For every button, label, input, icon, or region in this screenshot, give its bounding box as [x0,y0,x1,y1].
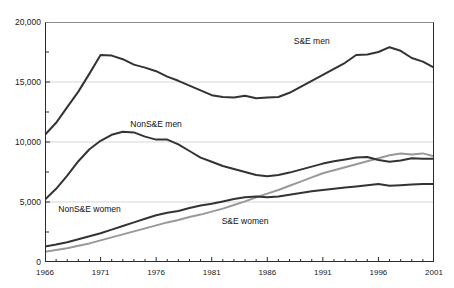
chart-figure: 05,00010,00015,00020,000 S&E menNonS&E m… [0,0,454,288]
plot-area: S&E menNonS&E menNonS&E womenS&E women [45,22,434,262]
x-axis-tick-labels: 19661971197619811986199119962001 [45,264,434,284]
series-label-s-e-women: S&E women [222,216,269,226]
series-label-s-e-men: S&E men [294,36,330,46]
y-tick-label: 15,000 [15,77,41,87]
y-axis-tick-labels: 05,00010,00015,00020,000 [0,22,41,262]
x-tick-label: 1981 [203,268,221,277]
y-tick-label: 5,000 [20,197,41,207]
x-tick-label: 1986 [258,268,276,277]
y-tick-label: 10,000 [15,137,41,147]
series-label-nons-e-men: NonS&E men [130,119,182,129]
x-tick-label: 1976 [147,268,165,277]
x-tick-label: 2001 [425,268,443,277]
y-tick-label: 20,000 [15,17,41,27]
x-tick-label: 1966 [36,268,54,277]
x-tick-label: 1991 [314,268,332,277]
y-tick-label: 0 [36,257,41,267]
x-tick-label: 1996 [369,268,387,277]
series-label-nons-e-women: NonS&E women [58,204,120,214]
x-tick-label: 1971 [92,268,110,277]
